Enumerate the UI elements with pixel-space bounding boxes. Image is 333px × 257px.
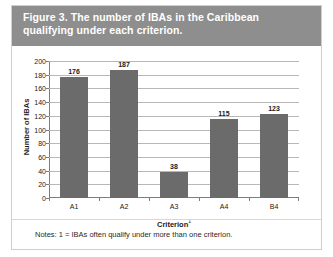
x-tick-mark: [298, 198, 299, 201]
x-tick-label: A1: [70, 203, 79, 210]
bar-slot: 38A3: [149, 61, 199, 198]
y-axis-title: Number of IBAs: [21, 82, 33, 172]
notes-divider: [12, 219, 321, 220]
bar-value-label: 115: [218, 110, 229, 117]
x-tick-mark: [49, 198, 50, 201]
y-tick-label: 0: [42, 195, 46, 202]
y-tick-label: 120: [34, 112, 46, 119]
bar-value-label: 187: [118, 61, 130, 68]
x-tick-label: A2: [120, 203, 129, 210]
bar-value-label: 123: [268, 105, 280, 112]
figure-container: Figure 3. The number of IBAs in the Cari…: [11, 5, 322, 250]
x-tick-label: A4: [220, 203, 229, 210]
y-tick-label: 160: [34, 85, 46, 92]
y-tick-label: 80: [38, 140, 46, 147]
x-tick-mark: [199, 198, 200, 201]
bar[interactable]: [60, 77, 88, 198]
x-tick-label: B4: [270, 203, 279, 210]
x-tick-mark: [99, 198, 100, 201]
bar-value-label: 38: [170, 163, 178, 170]
bar[interactable]: [260, 114, 288, 198]
chart-area: Number of IBAs 0204060801001201401601802…: [12, 46, 321, 211]
x-axis-title-text: Criterion: [157, 220, 188, 229]
y-tick-label: 60: [38, 153, 46, 160]
y-tick-label: 40: [38, 167, 46, 174]
bar-slot: 187A2: [99, 61, 149, 198]
bar[interactable]: [160, 172, 188, 198]
bar[interactable]: [110, 70, 138, 198]
bar-value-label: 176: [68, 68, 80, 75]
y-tick-label: 100: [34, 126, 46, 133]
plot-area: 020406080100120140160180200 176A1187A238…: [49, 61, 299, 198]
bar-group: 176A1187A238A3115A4123B4: [49, 61, 299, 198]
bar[interactable]: [210, 119, 238, 198]
x-tick-mark: [149, 198, 150, 201]
y-tick-label: 180: [34, 71, 46, 78]
figure-title: Figure 3. The number of IBAs in the Cari…: [23, 11, 311, 37]
bar-slot: 115A4: [199, 61, 249, 198]
y-tick-label: 200: [34, 58, 46, 65]
figure-notes: Notes: 1 = IBAs often qualify under more…: [35, 230, 232, 239]
figure-header: Figure 3. The number of IBAs in the Cari…: [12, 6, 321, 46]
y-tick-label: 20: [38, 181, 46, 188]
bar-slot: 176A1: [49, 61, 99, 198]
x-tick-label: A3: [170, 203, 179, 210]
y-tick-label: 140: [34, 99, 46, 106]
x-tick-mark: [249, 198, 250, 201]
bar-slot: 123B4: [249, 61, 299, 198]
